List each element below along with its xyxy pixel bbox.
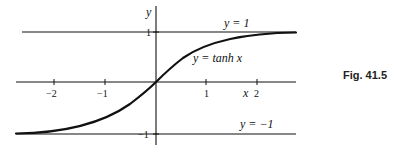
asymptote-bottom-label: y = −1 <box>239 117 274 131</box>
y-tick-label-1: 1 <box>146 27 151 38</box>
y-axis-label: y <box>145 5 152 19</box>
x-axis-label: x <box>242 86 249 100</box>
x-tick-label-1: 1 <box>204 88 209 99</box>
y-tick-label-m1: −1 <box>138 129 149 140</box>
x-tick-label-m2: −2 <box>46 88 57 99</box>
asymptote-top-label: y = 1 <box>223 16 249 30</box>
tanh-chart: y x −2 −1 1 2 1 −1 y = 1 y = tanh x y = … <box>0 0 398 153</box>
x-tick-label-m1: −1 <box>97 88 108 99</box>
figure-caption: Fig. 41.5 <box>343 69 387 81</box>
x-tick-label-2: 2 <box>254 88 259 99</box>
curve-label: y = tanh x <box>192 51 243 65</box>
